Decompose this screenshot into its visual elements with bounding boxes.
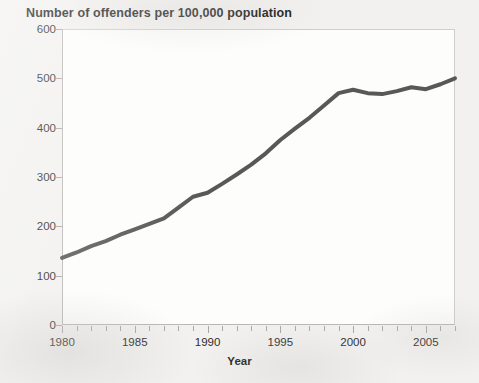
x-axis-minor-tick <box>120 326 121 331</box>
y-axis-tick-label: 200 <box>4 220 56 232</box>
y-axis-tick-label: 500 <box>4 72 56 84</box>
chart-title: Number of offenders per 100,000 populati… <box>26 6 292 20</box>
x-axis-major-tick <box>62 326 63 333</box>
x-axis-tick-label: 2005 <box>404 336 448 348</box>
x-axis-minor-tick <box>222 326 223 331</box>
x-axis-minor-tick <box>237 326 238 331</box>
y-axis-tick-mark <box>56 177 62 178</box>
x-axis-major-tick <box>426 326 427 333</box>
x-axis-minor-tick <box>106 326 107 331</box>
y-axis-tick-label: 400 <box>4 122 56 134</box>
x-axis-minor-tick <box>309 326 310 331</box>
y-axis-labels: 0100200300400500600 <box>0 0 56 383</box>
x-axis-major-tick <box>208 326 209 333</box>
x-axis-minor-tick <box>455 326 456 331</box>
series-offenders-per-100000 <box>62 29 455 325</box>
y-axis-tick-mark <box>56 29 62 30</box>
x-axis-minor-tick <box>295 326 296 331</box>
y-axis-tick-label: 300 <box>4 171 56 183</box>
x-axis-minor-tick <box>339 326 340 331</box>
y-axis-tick-mark <box>56 128 62 129</box>
x-axis-minor-tick <box>164 326 165 331</box>
x-axis-minor-tick <box>266 326 267 331</box>
series-line <box>62 78 455 258</box>
x-axis-minor-tick <box>368 326 369 331</box>
y-axis-tick-label: 100 <box>4 270 56 282</box>
x-axis-tick-label: 1980 <box>40 336 84 348</box>
x-axis-minor-tick <box>178 326 179 331</box>
x-axis-tick-label: 1995 <box>258 336 302 348</box>
x-axis-major-tick <box>135 326 136 333</box>
x-axis-minor-tick <box>251 326 252 331</box>
y-axis-tick-label: 600 <box>4 23 56 35</box>
x-axis-minor-tick <box>91 326 92 331</box>
x-axis-minor-tick <box>440 326 441 331</box>
x-axis-title: Year <box>0 355 479 367</box>
x-axis-major-tick <box>353 326 354 333</box>
y-axis-tick-mark <box>56 226 62 227</box>
x-axis-tick-label: 1985 <box>113 336 157 348</box>
x-axis-minor-tick <box>193 326 194 331</box>
x-axis-minor-tick <box>77 326 78 331</box>
x-axis-tick-label: 2000 <box>331 336 375 348</box>
x-axis-minor-tick <box>411 326 412 331</box>
line-chart: Number of offenders per 100,000 populati… <box>0 0 479 383</box>
x-axis-major-tick <box>280 326 281 333</box>
x-axis-minor-tick <box>324 326 325 331</box>
y-axis-tick-mark <box>56 78 62 79</box>
x-axis-minor-tick <box>149 326 150 331</box>
x-axis-minor-tick <box>382 326 383 331</box>
y-axis-tick-mark <box>56 276 62 277</box>
x-axis-minor-tick <box>397 326 398 331</box>
y-axis-tick-label: 0 <box>4 319 56 331</box>
x-axis-tick-label: 1990 <box>186 336 230 348</box>
